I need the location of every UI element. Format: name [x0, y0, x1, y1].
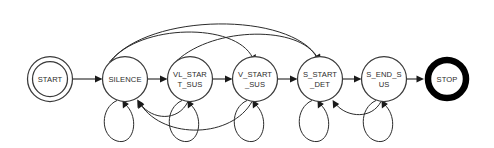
node-v-start-sus-label-line2: _SUS [244, 80, 265, 89]
arrowhead-icon [354, 76, 362, 83]
fsm-diagram-canvas: START SILENCE VL_STAR T_SUS V_START _SUS [0, 0, 494, 148]
edge-send-to-stop [407, 76, 424, 83]
edge-vstart-to-sstart [278, 76, 298, 83]
edge-start-to-silence [73, 76, 103, 83]
edge-vlstart-to-vstart [213, 76, 233, 83]
node-stop-label: STOP [437, 75, 458, 84]
node-start-label: START [38, 75, 63, 84]
arrowhead-icon [160, 76, 168, 83]
node-s-start-det-label-line2: _DET [309, 80, 330, 89]
node-vl-start-sus-label-line1: VL_STAR [173, 70, 207, 79]
node-stop[interactable]: STOP [428, 60, 466, 98]
self-loop-silence [104, 100, 133, 142]
edge-silence-to-vlstart [148, 76, 168, 83]
node-s-start-det-circle [298, 57, 343, 102]
self-loop-sstart [299, 100, 328, 142]
node-s-end-sus-label-line1: S_END_S [366, 70, 401, 79]
edge-silence-to-sstart-arc [110, 24, 321, 63]
node-v-start-sus-circle [233, 57, 278, 102]
edge-sstart-to-send [343, 76, 362, 83]
fsm-diagram-svg: START SILENCE VL_STAR T_SUS V_START _SUS [0, 0, 494, 148]
arrowhead-icon [95, 76, 103, 83]
node-vl-start-sus[interactable]: VL_STAR T_SUS [168, 57, 213, 102]
node-silence-label: SILENCE [108, 75, 141, 84]
arrowhead-icon [225, 76, 233, 83]
edge-vlstart-to-silence-arc [137, 100, 188, 117]
node-silence[interactable]: SILENCE [103, 57, 148, 102]
self-loop-vlstart [169, 100, 198, 142]
node-s-end-sus-label-line2: US [379, 80, 390, 89]
node-v-start-sus-label-line1: V_START [238, 70, 272, 79]
node-s-end-sus[interactable]: S_END_S US [362, 57, 407, 102]
node-s-start-det-label-line1: S_START [303, 70, 337, 79]
node-v-start-sus[interactable]: V_START _SUS [233, 57, 278, 102]
arrowhead-icon [417, 76, 425, 83]
node-s-end-sus-circle [362, 57, 407, 102]
node-start[interactable]: START [28, 57, 73, 102]
node-vl-start-sus-circle [168, 57, 213, 102]
node-vl-start-sus-label-line2: T_SUS [178, 80, 203, 89]
arrowhead-icon [290, 76, 298, 83]
node-s-start-det[interactable]: S_START _DET [298, 57, 343, 102]
